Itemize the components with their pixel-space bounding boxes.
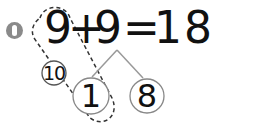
make-ten-problem: 9 + 9 = 18 10 1 8 (0, 0, 255, 126)
branch-line-right (117, 50, 143, 78)
ten-label: 10 (42, 62, 66, 84)
split-left-label: 1 (73, 78, 109, 114)
problem-number-badge (6, 22, 23, 39)
addend-2: 9 (94, 6, 122, 50)
problem-number-glyph (12, 25, 17, 36)
sum: 18 (154, 6, 214, 50)
branch-line-left (92, 50, 117, 77)
split-right-label: 8 (130, 78, 164, 114)
